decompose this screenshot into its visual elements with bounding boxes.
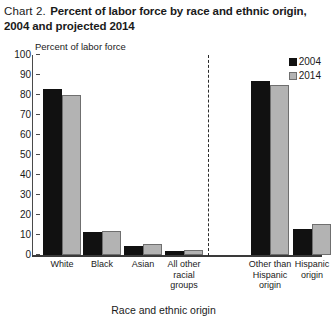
bar-2004	[43, 89, 62, 255]
legend-item-2014: 2014	[289, 70, 321, 82]
x-axis-line	[32, 255, 322, 257]
chart-legend: 20042014	[289, 56, 321, 84]
x-axis-category-label: Hispanic origin	[282, 259, 335, 280]
y-axis-title: Percent of labor force	[35, 41, 126, 52]
bar-2004	[293, 229, 312, 255]
chart-title-text: Percent of labor force by race and ethni…	[4, 5, 307, 32]
y-axis-tick-label: 50	[20, 149, 31, 161]
bar-2014	[184, 250, 203, 255]
bar-group	[124, 55, 162, 255]
legend-swatch-icon	[289, 58, 297, 66]
legend-label: 2014	[299, 70, 321, 82]
y-axis-tick-label: 10	[20, 229, 31, 241]
legend-label: 2004	[299, 56, 321, 68]
bar-2004	[251, 81, 270, 255]
bar-group	[251, 55, 289, 255]
y-axis-tick-label: 80	[20, 89, 31, 101]
bar-2014	[270, 85, 289, 255]
y-axis-tick-label: 20	[20, 209, 31, 221]
y-axis-tick-label: 40	[20, 169, 31, 181]
chart-title-prefix: Chart 2.	[4, 5, 46, 17]
bar-2004	[83, 232, 102, 255]
bar-2004	[165, 251, 184, 255]
y-axis-tick-label: 70	[20, 109, 31, 121]
x-axis-title: Race and ethnic origin	[0, 304, 327, 316]
bar-group	[165, 55, 203, 255]
bar-2014	[102, 231, 121, 255]
y-axis-tick-label: 30	[20, 189, 31, 201]
bar-2014	[62, 95, 81, 255]
bar-2004	[124, 246, 143, 255]
legend-swatch-icon	[289, 72, 297, 80]
bar-2014	[143, 244, 162, 255]
chart-title: Chart 2. Percent of labor force by race …	[4, 3, 322, 33]
y-axis-tick-label: 60	[20, 129, 31, 141]
x-axis-category-label: All other racial groups	[154, 259, 214, 291]
bar-group	[43, 55, 81, 255]
bar-group	[83, 55, 121, 255]
y-axis-tick-label: 0	[25, 249, 31, 261]
legend-item-2004: 2004	[289, 56, 321, 68]
chart-figure: Percent of labor force 01020304050607080…	[0, 38, 327, 324]
x-axis-category-labels: WhiteBlackAsianAll other racial groupsOt…	[32, 259, 322, 305]
bar-2014	[312, 224, 331, 255]
y-axis-tick-label: 100	[14, 49, 31, 61]
bar-group	[293, 55, 331, 255]
y-axis-tick-label: 90	[20, 69, 31, 81]
bars-layer	[32, 55, 322, 255]
